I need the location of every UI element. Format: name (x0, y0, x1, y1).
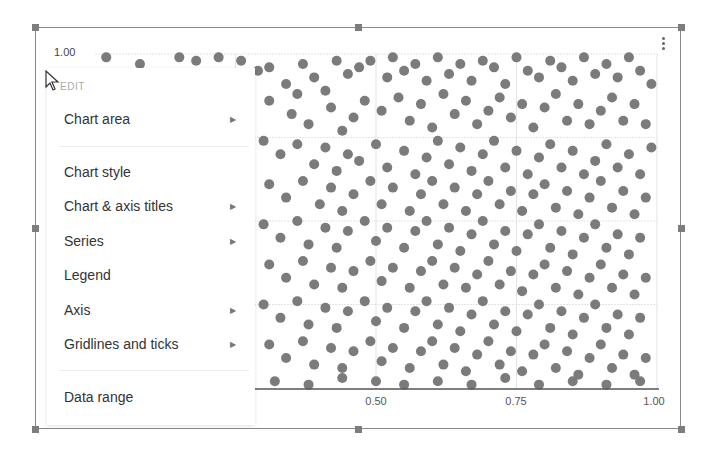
data-point[interactable] (596, 340, 606, 350)
data-point[interactable] (444, 303, 454, 313)
data-point[interactable] (500, 79, 510, 89)
data-point[interactable] (264, 62, 274, 72)
data-point[interactable] (506, 346, 516, 356)
data-point[interactable] (438, 279, 448, 289)
data-point[interactable] (512, 326, 522, 336)
data-point[interactable] (259, 219, 269, 229)
data-point[interactable] (641, 273, 651, 283)
data-point[interactable] (562, 186, 572, 196)
data-point[interactable] (523, 169, 533, 179)
data-point[interactable] (377, 106, 387, 116)
data-point[interactable] (528, 189, 538, 199)
data-point[interactable] (467, 310, 477, 320)
data-point[interactable] (433, 136, 443, 146)
data-point[interactable] (545, 243, 555, 253)
menu-item-legend[interactable]: Legend (47, 260, 255, 290)
data-point[interactable] (281, 353, 291, 363)
data-point[interactable] (332, 56, 342, 66)
data-point[interactable] (528, 350, 538, 360)
data-point[interactable] (545, 323, 555, 333)
data-point[interactable] (590, 69, 600, 79)
data-point[interactable] (393, 92, 403, 102)
data-point[interactable] (309, 360, 319, 370)
data-point[interactable] (382, 163, 392, 173)
data-point[interactable] (281, 79, 291, 89)
data-point[interactable] (309, 279, 319, 289)
data-point[interactable] (371, 316, 381, 326)
data-point[interactable] (551, 283, 561, 293)
data-point[interactable] (388, 263, 398, 273)
data-point[interactable] (427, 176, 437, 186)
data-point[interactable] (320, 86, 330, 96)
data-point[interactable] (416, 189, 426, 199)
data-point[interactable] (349, 346, 359, 356)
data-point[interactable] (540, 340, 550, 350)
data-point[interactable] (438, 360, 448, 370)
data-point[interactable] (275, 233, 285, 243)
data-point[interactable] (551, 89, 561, 99)
data-point[interactable] (618, 350, 628, 360)
data-point[interactable] (360, 216, 370, 226)
data-point[interactable] (444, 69, 454, 79)
data-point[interactable] (635, 66, 645, 76)
data-point[interactable] (326, 263, 336, 273)
data-point[interactable] (174, 52, 184, 62)
data-point[interactable] (489, 62, 499, 72)
data-point[interactable] (579, 313, 589, 323)
data-point[interactable] (382, 72, 392, 82)
data-point[interactable] (461, 283, 471, 293)
data-point[interactable] (478, 216, 488, 226)
data-point[interactable] (320, 223, 330, 233)
data-point[interactable] (467, 166, 477, 176)
data-point[interactable] (365, 176, 375, 186)
data-point[interactable] (624, 52, 634, 62)
data-point[interactable] (551, 363, 561, 373)
data-point[interactable] (259, 300, 269, 310)
data-point[interactable] (365, 336, 375, 346)
data-point[interactable] (101, 52, 111, 62)
data-point[interactable] (483, 256, 493, 266)
data-point[interactable] (304, 239, 314, 249)
data-point[interactable] (298, 256, 308, 266)
data-point[interactable] (607, 363, 617, 373)
menu-item-gridlines-ticks[interactable]: Gridlines and ticks ▶ (47, 329, 255, 359)
data-point[interactable] (416, 346, 426, 356)
data-point[interactable] (585, 193, 595, 203)
data-point[interactable] (337, 363, 347, 373)
data-point[interactable] (585, 273, 595, 283)
data-point[interactable] (416, 99, 426, 109)
data-point[interactable] (483, 106, 493, 116)
data-point[interactable] (613, 229, 623, 239)
data-point[interactable] (601, 380, 611, 390)
data-point[interactable] (332, 323, 342, 333)
data-point[interactable] (517, 206, 527, 216)
data-point[interactable] (343, 149, 353, 159)
data-point[interactable] (427, 122, 437, 132)
data-point[interactable] (399, 380, 409, 390)
data-point[interactable] (641, 353, 651, 363)
data-point[interactable] (568, 330, 578, 340)
data-point[interactable] (371, 376, 381, 386)
data-point[interactable] (349, 266, 359, 276)
data-point[interactable] (500, 306, 510, 316)
data-point[interactable] (495, 360, 505, 370)
data-point[interactable] (377, 199, 387, 209)
data-point[interactable] (478, 56, 488, 66)
data-point[interactable] (264, 96, 274, 106)
data-point[interactable] (275, 313, 285, 323)
data-point[interactable] (495, 199, 505, 209)
data-point[interactable] (512, 52, 522, 62)
data-point[interactable] (562, 266, 572, 276)
menu-item-axis[interactable]: Axis ▶ (47, 295, 255, 325)
data-point[interactable] (528, 269, 538, 279)
data-point[interactable] (573, 289, 583, 299)
data-point[interactable] (236, 56, 246, 66)
data-point[interactable] (500, 373, 510, 383)
data-point[interactable] (489, 320, 499, 330)
data-point[interactable] (410, 306, 420, 316)
data-point[interactable] (264, 259, 274, 269)
data-point[interactable] (523, 229, 533, 239)
data-point[interactable] (349, 112, 359, 122)
data-point[interactable] (540, 102, 550, 112)
data-point[interactable] (388, 183, 398, 193)
